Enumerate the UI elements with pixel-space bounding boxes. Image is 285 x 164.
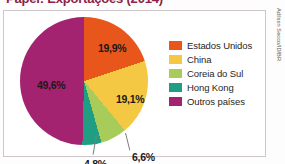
image-credit-text: Adilson Secco/ID/BR bbox=[276, 8, 282, 61]
slice-label-hong-kong: 4,8% bbox=[84, 158, 107, 164]
slice-label-outros-paises: 49,6% bbox=[37, 79, 65, 91]
legend-item: Coreia do Sul bbox=[169, 66, 267, 80]
chart-title-strip: Papel: Exportações (2014) bbox=[0, 0, 240, 7]
page-title: Papel: Exportações (2014) bbox=[0, 0, 240, 7]
legend-item-label: Coreia do Sul bbox=[187, 68, 243, 79]
legend-item-label: China bbox=[187, 54, 211, 65]
pie-chart: 19,9% 19,1% 49,6% 6,6% 4,8% bbox=[12, 15, 162, 147]
legend-swatch bbox=[169, 97, 182, 106]
legend-swatch bbox=[169, 69, 182, 78]
legend-swatch bbox=[169, 41, 182, 50]
slice-label-estados-unidos: 19,9% bbox=[98, 42, 126, 54]
legend-item: Hong Kong bbox=[169, 80, 267, 94]
legend-item-label: Outros países bbox=[187, 96, 245, 107]
chart-panel: 19,9% 19,1% 49,6% 6,6% 4,8% Estados Unid… bbox=[3, 10, 266, 157]
chart-figure: Papel: Exportações (2014) 19,9% 19,1% 49… bbox=[0, 0, 285, 164]
slice-label-china: 19,1% bbox=[116, 93, 144, 105]
image-credit: Adilson Secco/ID/BR bbox=[274, 8, 284, 98]
legend-item: China bbox=[169, 52, 267, 66]
legend-item-label: Estados Unidos bbox=[187, 40, 252, 51]
slice-label-coreia-do-sul: 6,6% bbox=[132, 151, 155, 163]
legend-item: Estados Unidos bbox=[169, 38, 267, 52]
legend-item: Outros países bbox=[169, 94, 267, 108]
legend-swatch bbox=[169, 83, 182, 92]
chart-legend: Estados UnidosChinaCoreia do SulHong Kon… bbox=[169, 38, 267, 108]
legend-item-label: Hong Kong bbox=[187, 82, 234, 93]
leader-line-coreia-do-sul bbox=[125, 133, 130, 151]
legend-swatch bbox=[169, 55, 182, 64]
